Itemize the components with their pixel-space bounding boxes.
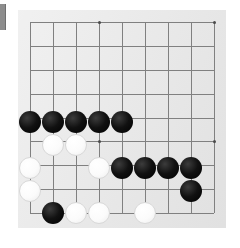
star-point bbox=[213, 21, 216, 24]
grid-line-vertical bbox=[168, 22, 169, 213]
star-point bbox=[98, 140, 101, 143]
screenshot-root bbox=[0, 0, 240, 248]
black-stone[interactable] bbox=[42, 111, 64, 133]
grid-line-vertical bbox=[214, 22, 215, 213]
black-stone[interactable] bbox=[134, 157, 156, 179]
white-stone[interactable] bbox=[19, 157, 41, 179]
star-point bbox=[98, 21, 101, 24]
black-stone[interactable] bbox=[65, 111, 87, 133]
black-stone[interactable] bbox=[180, 157, 202, 179]
black-stone[interactable] bbox=[111, 157, 133, 179]
white-stone[interactable] bbox=[19, 180, 41, 202]
black-stone[interactable] bbox=[180, 180, 202, 202]
black-stone[interactable] bbox=[111, 111, 133, 133]
white-stone[interactable] bbox=[88, 157, 110, 179]
star-point bbox=[213, 140, 216, 143]
black-stone[interactable] bbox=[157, 157, 179, 179]
white-stone[interactable] bbox=[134, 202, 156, 224]
white-stone[interactable] bbox=[42, 134, 64, 156]
white-stone[interactable] bbox=[65, 202, 87, 224]
black-stone[interactable] bbox=[88, 111, 110, 133]
black-stone[interactable] bbox=[42, 202, 64, 224]
white-stone[interactable] bbox=[88, 202, 110, 224]
white-stone[interactable] bbox=[65, 134, 87, 156]
grid-line-vertical bbox=[145, 22, 146, 213]
black-stone[interactable] bbox=[19, 111, 41, 133]
